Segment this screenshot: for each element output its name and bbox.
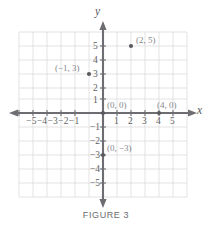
point-label-neg1-3: (−1, 3): [55, 64, 80, 73]
figure-caption: FIGURE 3: [0, 210, 212, 220]
point-label-0-neg3: (0, −3): [107, 144, 132, 153]
y-tick-label-3: 3: [93, 70, 98, 80]
point-2-5: [129, 44, 133, 48]
point-label-0-0: (0, 0): [107, 101, 127, 110]
x-tick-label-1: 1: [114, 117, 119, 127]
point-0-0: [101, 111, 105, 115]
x-axis-arrow-right: [188, 109, 197, 116]
y-tick-label-neg-3: −3: [90, 151, 100, 161]
point-label-2-5: (2, 5): [136, 36, 156, 45]
x-tick-label-5: 5: [170, 117, 175, 127]
y-tick-label-5: 5: [93, 42, 98, 52]
y-tick-label-neg-4: −4: [90, 165, 100, 175]
figure-container: y x −5−4−3−2−1 1 2 3 4 5 5 4 3 2 1 −1 −2…: [0, 0, 212, 233]
x-axis-arrow-left: [9, 109, 18, 116]
y-tick-label-1: 1: [93, 96, 98, 106]
x-tick-label-4: 4: [156, 117, 161, 127]
y-tick-label-neg-1: −1: [90, 123, 100, 133]
y-axis-arrow-down: [99, 199, 106, 208]
x-tick-label-negative-group: −5−4−3−2−1: [26, 117, 80, 127]
y-tick-label-2: 2: [93, 84, 98, 94]
y-tick-label-4: 4: [93, 56, 98, 66]
x-axis-label: x: [197, 105, 202, 117]
y-tick-label-neg-5: −5: [90, 179, 100, 189]
y-axis-arrow-up: [99, 21, 106, 30]
point-label-4-0: (4, 0): [157, 101, 177, 110]
x-tick-label-3: 3: [142, 117, 147, 127]
y-tick-label-neg-2: −2: [90, 137, 100, 147]
point-4-0: [157, 111, 161, 115]
y-axis-label: y: [95, 6, 100, 18]
x-tick-label-2: 2: [128, 117, 133, 127]
point-neg1-3: [87, 72, 91, 76]
point-0-neg3: [101, 153, 105, 157]
